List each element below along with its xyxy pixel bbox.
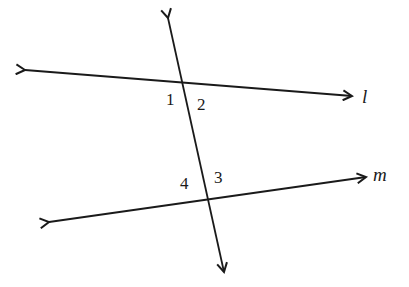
diagram-canvas: l m 1 2 3 4 [0,0,409,287]
angle-label-1: 1 [166,90,175,109]
angle-label-2: 2 [197,95,206,114]
label-line-l: l [362,86,367,107]
angle-label-3: 3 [214,168,223,187]
transversal-line [168,18,224,272]
line-l [25,70,352,96]
label-line-m: m [373,164,387,185]
angle-label-4: 4 [180,174,189,193]
